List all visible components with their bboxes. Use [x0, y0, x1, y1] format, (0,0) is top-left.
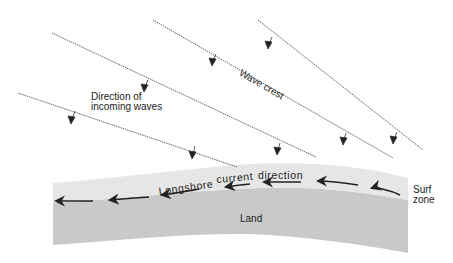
- arrow-down-icon: [141, 80, 148, 92]
- arrow-down-icon: [274, 143, 281, 155]
- arrow-down-icon: [209, 54, 216, 66]
- arrow-down-icon: [340, 133, 347, 145]
- label-surf-line2: zone: [413, 194, 435, 205]
- label-direction: direction: [258, 170, 303, 181]
- diagram-graphics: [0, 0, 453, 263]
- wave-crests: [18, 20, 423, 167]
- arrow-down-icon: [390, 132, 397, 144]
- longshore-current-diagram: Direction of incoming waves Wave crest L…: [0, 0, 453, 263]
- label-land: Land: [240, 213, 262, 224]
- wave-crest-4: [258, 20, 423, 150]
- label-direction-incoming-line2: incoming waves: [91, 101, 162, 112]
- arrow-down-icon: [265, 37, 272, 49]
- arrow-down-icon: [68, 111, 75, 124]
- arrow-down-icon: [189, 146, 196, 159]
